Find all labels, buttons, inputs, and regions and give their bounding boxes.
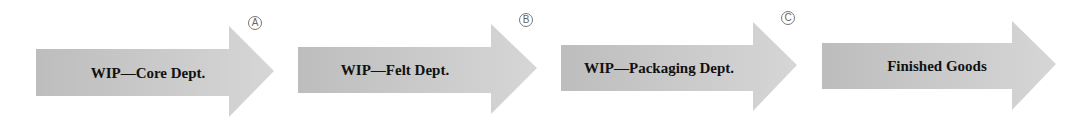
step-label-finished-goods: Finished Goods [887,58,987,75]
